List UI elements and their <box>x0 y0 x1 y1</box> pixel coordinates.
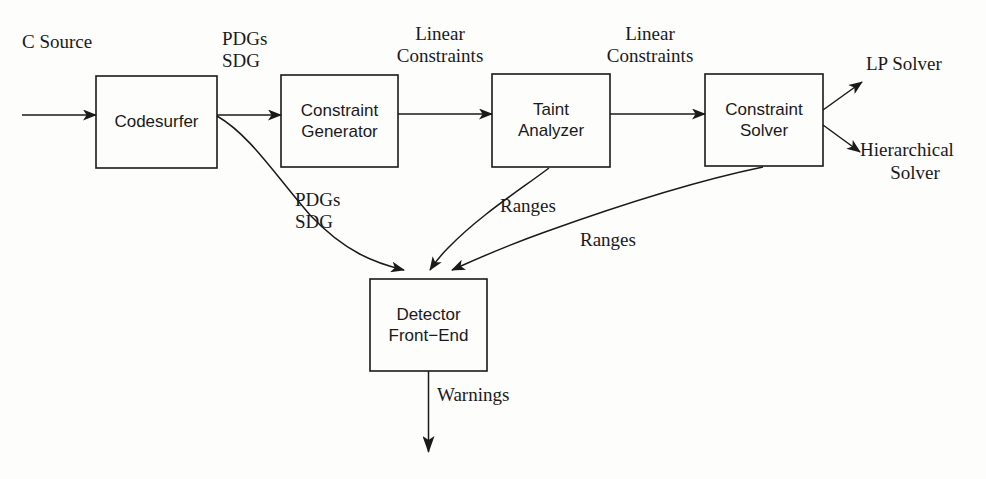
box-label-constraint-generator-2: Generator <box>301 122 378 141</box>
arrow-constraint-solver-to-hierarchical-solver <box>823 125 860 152</box>
curve-constraint-solver-to-detector <box>452 167 763 270</box>
box-taint-analyzer[interactable]: Taint Analyzer <box>492 74 610 167</box>
box-codesurfer[interactable]: Codesurfer <box>96 76 217 168</box>
label-hierarchical-1: Hierarchical <box>860 139 954 160</box>
box-label-taint-analyzer-1: Taint <box>533 100 569 119</box>
label-sdg-top: SDG <box>222 50 260 71</box>
label-pdgs-low: PDGs <box>295 189 340 210</box>
architecture-diagram: Codesurfer Constraint Generator Taint An… <box>0 0 986 479</box>
label-linear-2-line2: Constraints <box>607 45 694 66</box>
box-constraint-generator[interactable]: Constraint Generator <box>281 75 398 167</box>
label-linear-1-line1: Linear <box>415 23 465 44</box>
box-label-constraint-solver-2: Solver <box>740 121 789 140</box>
box-label-codesurfer: Codesurfer <box>114 112 198 131</box>
label-c-source: C Source <box>22 31 92 52</box>
label-warnings: Warnings <box>437 384 509 405</box>
box-label-constraint-generator-1: Constraint <box>301 101 379 120</box>
label-lp-solver: LP Solver <box>866 53 942 74</box>
label-linear-2-line1: Linear <box>625 23 675 44</box>
box-constraint-solver[interactable]: Constraint Solver <box>705 74 823 166</box>
box-label-detector-front-end-2: Front−End <box>389 326 469 345</box>
box-label-taint-analyzer-2: Analyzer <box>518 121 584 140</box>
box-label-constraint-solver-1: Constraint <box>725 100 803 119</box>
label-linear-1-line2: Constraints <box>397 45 484 66</box>
curve-taint-analyzer-to-detector <box>430 168 549 270</box>
label-sdg-low: SDG <box>295 211 333 232</box>
label-ranges-2: Ranges <box>580 229 636 250</box>
arrow-constraint-solver-to-lp-solver <box>823 82 862 110</box>
figure-canvas: DETECTOR ARCHITECTURE Codesurfer Constra… <box>0 0 986 479</box>
label-pdgs-top: PDGs <box>222 28 267 49</box>
box-detector-front-end[interactable]: Detector Front−End <box>370 279 487 371</box>
box-label-detector-front-end-1: Detector <box>396 305 461 324</box>
label-hierarchical-2: Solver <box>890 162 940 183</box>
label-ranges-1: Ranges <box>500 195 556 216</box>
